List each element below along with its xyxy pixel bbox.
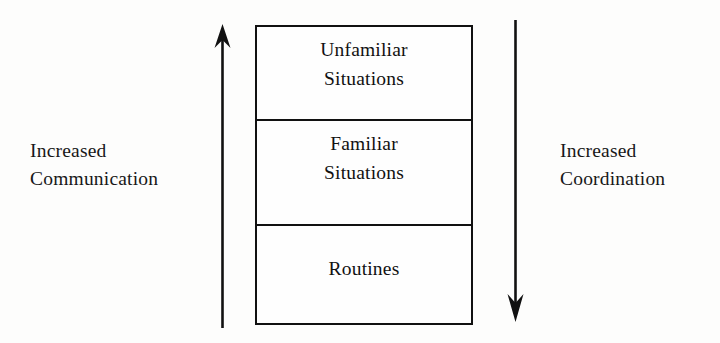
band-familiar-line1: Familiar bbox=[324, 129, 404, 158]
band-familiar-text: Familiar Situations bbox=[324, 129, 404, 187]
band-familiar: Familiar Situations bbox=[257, 121, 471, 226]
right-axis-label-line1: Increased bbox=[560, 137, 665, 165]
band-stack: Unfamiliar Situations Familiar Situation… bbox=[255, 25, 473, 325]
band-familiar-line2: Situations bbox=[324, 158, 404, 187]
band-unfamiliar: Unfamiliar Situations bbox=[257, 27, 471, 121]
band-unfamiliar-text: Unfamiliar Situations bbox=[320, 35, 408, 93]
band-routines: Routines bbox=[257, 226, 471, 323]
left-axis-label-line1: Increased bbox=[30, 137, 158, 165]
band-unfamiliar-line1: Unfamiliar bbox=[320, 35, 408, 64]
left-axis-label-line2: Communication bbox=[30, 165, 158, 193]
right-axis-label-line2: Coordination bbox=[560, 165, 665, 193]
band-unfamiliar-line2: Situations bbox=[320, 64, 408, 93]
band-routines-text: Routines bbox=[329, 254, 400, 283]
arrow-down-icon bbox=[499, 16, 533, 326]
right-axis-label: Increased Coordination bbox=[560, 137, 665, 193]
diagram-canvas: Increased Communication Unfamiliar Situa… bbox=[0, 0, 720, 343]
band-routines-line1: Routines bbox=[329, 254, 400, 283]
arrow-up-icon bbox=[206, 20, 240, 330]
left-axis-label: Increased Communication bbox=[30, 137, 158, 193]
